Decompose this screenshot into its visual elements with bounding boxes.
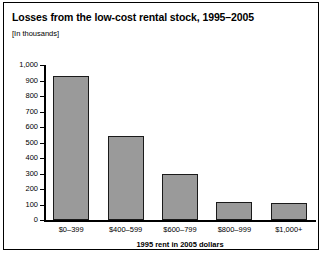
bar: [53, 76, 89, 220]
chart-subtitle: [In thousands]: [12, 29, 59, 38]
y-axis-tick: [40, 174, 44, 175]
bar: [271, 203, 307, 220]
y-axis-line: [44, 65, 46, 220]
y-axis-tick-label: 100: [25, 201, 38, 209]
y-axis-tick-label: 900: [25, 77, 38, 85]
y-axis-tick: [40, 220, 44, 221]
y-axis-tick-label: 0: [34, 216, 38, 224]
y-axis-tick-label: 600: [25, 123, 38, 131]
y-axis-tick-label: 200: [25, 185, 38, 193]
y-axis-tick-label: 700: [25, 108, 38, 116]
x-axis-tick-label: $600–799: [153, 225, 207, 234]
x-axis-tick-label: $400–599: [98, 225, 152, 234]
y-axis-tick: [40, 81, 44, 82]
y-axis-tick: [40, 143, 44, 144]
bar: [216, 202, 252, 220]
chart-figure: Losses from the low-cost rental stock, 1…: [3, 2, 319, 250]
x-axis-tick-label: $0–399: [44, 225, 98, 234]
y-axis-tick: [40, 96, 44, 97]
bar: [108, 136, 144, 220]
y-axis-tick-label: 800: [25, 92, 38, 100]
y-axis-tick: [40, 127, 44, 128]
x-axis-tick-label: $800–999: [207, 225, 261, 234]
plot-area: 01002003004005006007008009001,000 $0–399…: [44, 65, 312, 220]
y-axis-tick-label: 400: [25, 154, 38, 162]
x-axis-line: [44, 220, 316, 222]
x-axis-tick-label: $1,000+: [262, 225, 316, 234]
x-axis-title: 1995 rent in 2005 dollars: [44, 240, 316, 249]
y-axis-tick-label: 1,000: [19, 61, 38, 69]
bar: [162, 174, 198, 220]
y-axis-tick-label: 500: [25, 139, 38, 147]
y-axis-tick-label: 300: [25, 170, 38, 178]
y-axis-tick: [40, 205, 44, 206]
y-axis-tick: [40, 65, 44, 66]
y-axis-tick: [40, 189, 44, 190]
y-axis-tick: [40, 158, 44, 159]
y-axis-tick: [40, 112, 44, 113]
chart-title: Losses from the low-cost rental stock, 1…: [12, 11, 254, 23]
